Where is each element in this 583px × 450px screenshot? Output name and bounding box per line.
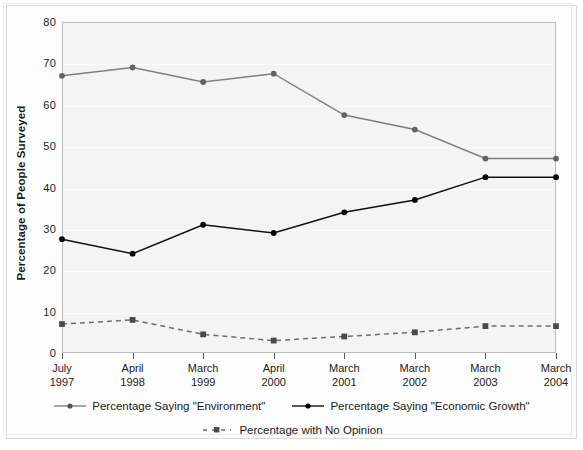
x-tick-mark	[344, 353, 345, 359]
legend-label: Percentage with No Opinion	[239, 424, 382, 436]
legend-swatch-environment	[53, 401, 87, 411]
gridline	[63, 106, 555, 107]
legend-swatch-economic-growth	[291, 401, 325, 411]
x-tick-mark	[556, 353, 557, 359]
gridline	[63, 313, 555, 314]
y-tick-label: 70	[16, 57, 56, 69]
legend-item-economic-growth[interactable]: Percentage Saying "Economic Growth"	[291, 400, 529, 412]
legend-item-environment[interactable]: Percentage Saying "Environment"	[53, 400, 265, 412]
y-tick-label: 0	[16, 347, 56, 359]
y-tick-label: 80	[16, 16, 56, 28]
gridline	[63, 271, 555, 272]
y-axis-title: Percentage of People Surveyed	[15, 93, 27, 293]
x-tick-mark	[415, 353, 416, 359]
x-tick-label-year: 2004	[511, 376, 583, 390]
legend-label: Percentage Saying "Environment"	[92, 400, 265, 412]
legend-row-2: Percentage with No Opinion	[0, 424, 583, 436]
x-tick-mark	[203, 353, 204, 359]
chart-figure: 80 70 60 50 40 30 20 10 0 Percentage of …	[0, 0, 583, 450]
legend-item-no-opinion[interactable]: Percentage with No Opinion	[200, 424, 382, 436]
x-tick-mark	[133, 353, 134, 359]
y-tick-label: 10	[16, 306, 56, 318]
plot-area	[62, 22, 556, 353]
x-tick-mark	[485, 353, 486, 359]
gridline	[63, 64, 555, 65]
legend-label: Percentage Saying "Economic Growth"	[330, 400, 529, 412]
legend-swatch-no-opinion	[200, 425, 234, 435]
gridline	[63, 189, 555, 190]
legend-row-1: Percentage Saying "Environment" Percenta…	[0, 400, 583, 412]
x-tick-label-month: March	[511, 362, 583, 376]
gridline	[63, 147, 555, 148]
gridline	[63, 230, 555, 231]
x-tick-mark	[62, 353, 63, 359]
x-tick-label: March2004	[511, 362, 583, 389]
x-tick-mark	[274, 353, 275, 359]
